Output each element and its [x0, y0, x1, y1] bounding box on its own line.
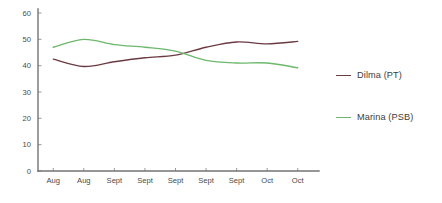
legend-swatch-icon: [336, 75, 351, 76]
x-tick-label: Aug: [47, 176, 61, 185]
legend-label: Dilma (PT): [357, 70, 402, 80]
y-tick-label: 30: [23, 88, 31, 97]
plot-area: 0102030405060 AugAugSeptSeptSeptSeptSept…: [0, 0, 330, 203]
series-lines: [53, 39, 297, 67]
y-tick-label: 20: [23, 114, 31, 123]
x-tick-label: Aug: [77, 176, 91, 185]
x-tick-label: Sept: [229, 176, 246, 185]
legend-item-marina-psb[interactable]: Marina (PSB): [336, 110, 442, 124]
x-tick-label: Sept: [198, 176, 215, 185]
y-tick-label: 10: [23, 140, 31, 149]
x-tick-label: Oct: [261, 176, 274, 185]
line-chart: 0102030405060 AugAugSeptSeptSeptSeptSept…: [0, 0, 442, 203]
x-tick-label: Sept: [168, 176, 185, 185]
y-tick-label: 40: [23, 61, 31, 70]
legend-item-dilma-pt[interactable]: Dilma (PT): [336, 68, 442, 82]
x-tick-label: Sept: [107, 176, 124, 185]
chart-canvas: 0102030405060 AugAugSeptSeptSeptSeptSept…: [0, 0, 330, 203]
y-axis-tick-labels: 0102030405060: [23, 9, 31, 176]
x-axis-tick-labels: AugAugSeptSeptSeptSeptSeptOctOct: [47, 176, 305, 185]
x-tick-label: Oct: [292, 176, 305, 185]
legend-swatch-icon: [336, 117, 351, 118]
chart-legend: Dilma (PT)Marina (PSB): [330, 0, 442, 203]
x-tick-label: Sept: [137, 176, 154, 185]
legend-label: Marina (PSB): [357, 112, 413, 122]
y-tick-label: 0: [27, 167, 31, 176]
y-tick-label: 60: [23, 9, 31, 18]
y-tick-label: 50: [23, 35, 31, 44]
